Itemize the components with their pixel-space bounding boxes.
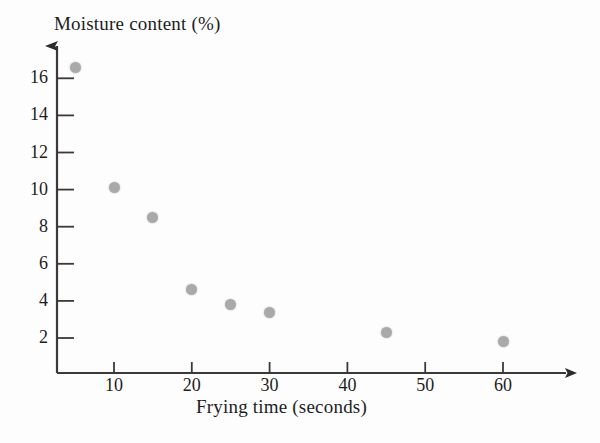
x-axis-tick-label: 60 [483,375,523,396]
x-axis-tick-label: 20 [172,375,212,396]
x-axis-tick-label: 10 [94,375,134,396]
data-point [70,62,81,73]
x-axis-tick-label: 50 [405,375,445,396]
y-axis-tick-label: 6 [14,253,48,274]
x-axis-tick-label: 40 [327,375,367,396]
y-axis-ticks [58,78,74,338]
scatter-plot-figure: Moisture content (%) Frying time (second… [0,0,600,443]
data-point [109,182,120,193]
y-axis-tick-label: 8 [14,216,48,237]
y-axis-tick-label: 10 [14,179,48,200]
y-axis-tick-label: 16 [14,67,48,88]
x-axis-tick-label: 30 [250,375,290,396]
data-point [381,327,392,338]
data-point [498,336,509,347]
y-axis-tick-label: 2 [14,327,48,348]
x-axis-ticks [114,362,503,372]
y-axis-tick-label: 12 [14,142,48,163]
y-axis-tick-label: 14 [14,104,48,125]
y-axis-tick-label: 4 [14,290,48,311]
